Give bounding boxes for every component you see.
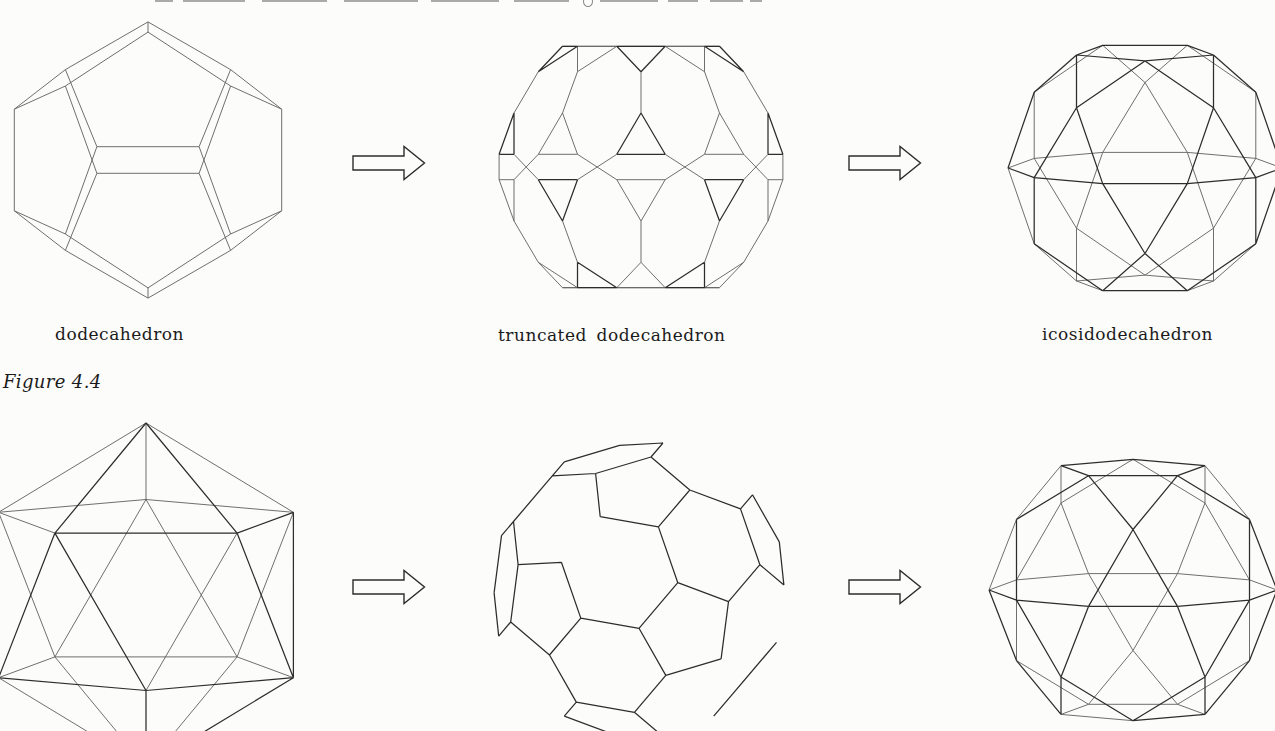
icosidodecahedron-figure bbox=[1005, 28, 1275, 314]
right-arrow-icon bbox=[848, 145, 922, 181]
right-arrow-icon bbox=[352, 569, 426, 605]
descender-loop bbox=[583, 0, 593, 7]
right-arrow-icon bbox=[848, 569, 922, 605]
dodecahedron-figure bbox=[0, 10, 296, 310]
dodecahedron-label: dodecahedron bbox=[55, 324, 184, 344]
icosahedron-figure bbox=[0, 418, 300, 731]
truncated-icosahedron-figure bbox=[490, 440, 788, 731]
icosidodecahedron-figure bbox=[986, 443, 1275, 731]
figure-caption: Figure 4.4 bbox=[3, 371, 102, 392]
truncated-dodecahedron-figure bbox=[495, 20, 789, 316]
truncated-dodecahedron-label: truncated dodecahedron bbox=[498, 325, 726, 345]
page: dodecahedron truncated dodecahedron icos… bbox=[0, 0, 1275, 731]
icosidodecahedron-label: icosidodecahedron bbox=[1042, 324, 1213, 344]
right-arrow-icon bbox=[352, 145, 426, 181]
page-top-clipped-text bbox=[0, 0, 1275, 8]
